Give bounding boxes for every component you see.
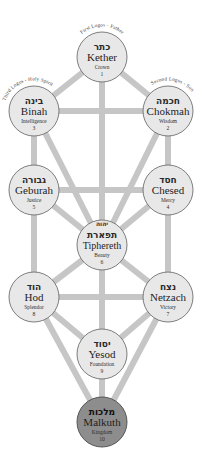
sephira-netzach[interactable]: נצחNetzachVictory7 bbox=[143, 272, 193, 322]
sephira-binah[interactable]: Third Logos - Holy SpiritבינהBinahIntell… bbox=[1, 75, 59, 136]
name-label-chokmah: Chokmah bbox=[147, 105, 190, 117]
title-label-netzach: Victory bbox=[160, 304, 176, 310]
sephira-yesod[interactable]: יסודYesodFoundation9 bbox=[77, 329, 127, 379]
number-label-netzach: 7 bbox=[167, 311, 170, 317]
sephira-malkuth[interactable]: מלכותMalkuthKingdom10 bbox=[77, 397, 127, 447]
name-label-tiphereth: Tiphereth bbox=[83, 240, 122, 251]
hebrew-label-chokmah: חכמה bbox=[156, 96, 180, 106]
title-label-tiphereth: Beauty bbox=[94, 252, 110, 258]
hebrew-label-geburah: גבורה bbox=[22, 175, 46, 185]
name-label-hod: Hod bbox=[25, 291, 44, 303]
tree-svg: First Logos - FatherכתרKetherCrown1Third… bbox=[0, 0, 201, 457]
title-label-kether: Crown bbox=[95, 64, 110, 70]
title-label-chesed: Mercy bbox=[161, 197, 175, 203]
tree-of-life-diagram: First Logos - FatherכתרKetherCrown1Third… bbox=[0, 0, 201, 457]
number-label-kether: 1 bbox=[101, 71, 104, 77]
number-label-tiphereth: 6 bbox=[101, 259, 104, 265]
hebrew-label-yesod: יסוד bbox=[93, 339, 110, 349]
hebrew-label-malkuth: מלכות bbox=[89, 407, 115, 417]
sephira-tiphereth[interactable]: תפארתTipherethBeauty6 bbox=[77, 220, 127, 270]
hebrew-label-chesed: חסד bbox=[159, 175, 177, 185]
sephira-chokmah[interactable]: Second Logos - SonחכמהChokmahWisdom2 bbox=[143, 75, 196, 136]
hebrew-label-netzach: נצח bbox=[160, 282, 176, 292]
title-label-hod: Splendor bbox=[24, 304, 44, 310]
name-label-kether: Kether bbox=[87, 51, 117, 63]
number-label-hod: 8 bbox=[33, 311, 36, 317]
title-label-malkuth: Kingdom bbox=[92, 429, 113, 435]
tiphereth-upper-hebrew: יהוה bbox=[96, 220, 108, 227]
title-label-binah: Intelligence bbox=[21, 118, 47, 124]
title-label-chokmah: Wisdom bbox=[159, 118, 178, 124]
name-label-binah: Binah bbox=[21, 105, 48, 117]
number-label-geburah: 5 bbox=[33, 204, 36, 210]
number-label-chesed: 4 bbox=[167, 204, 170, 210]
hebrew-label-binah: בינה bbox=[25, 96, 44, 106]
hebrew-label-tiphereth: תפארת bbox=[87, 230, 117, 240]
title-label-geburah: Justice bbox=[27, 197, 42, 203]
sephira-hod[interactable]: הודHodSplendor8 bbox=[9, 272, 59, 322]
number-label-binah: 3 bbox=[33, 125, 36, 131]
sephira-kether[interactable]: First Logos - FatherכתרKetherCrown1 bbox=[77, 21, 127, 82]
title-label-yesod: Foundation bbox=[90, 361, 115, 367]
hebrew-label-kether: כתר bbox=[94, 42, 111, 52]
name-label-netzach: Netzach bbox=[150, 291, 187, 303]
sephira-geburah[interactable]: גבורהGeburahJustice5 bbox=[9, 165, 59, 215]
sephira-chesed[interactable]: חסדChesedMercy4 bbox=[143, 165, 193, 215]
hebrew-label-hod: הוד bbox=[27, 282, 42, 292]
number-label-malkuth: 10 bbox=[99, 436, 105, 442]
number-label-chokmah: 2 bbox=[167, 125, 170, 131]
number-label-yesod: 9 bbox=[101, 368, 104, 374]
name-label-malkuth: Malkuth bbox=[83, 416, 121, 428]
name-label-geburah: Geburah bbox=[15, 184, 53, 196]
name-label-chesed: Chesed bbox=[152, 184, 185, 196]
name-label-yesod: Yesod bbox=[88, 348, 116, 360]
